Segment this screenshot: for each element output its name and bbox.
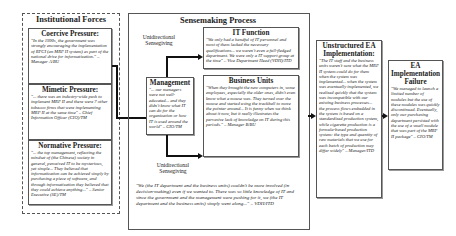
mimetic-pressure-title: Mimetic Pressure:: [31, 86, 109, 94]
unstructured-ea-title: Unstructured EA Implementation:: [319, 42, 379, 58]
business-units-box: Business Units "When they brought the ne…: [203, 75, 299, 157]
management-quote: "... our managers were not well-educated…: [149, 87, 191, 129]
ea-failure-quote: "We managed to launch a limited number o…: [391, 86, 440, 139]
normative-pressure-title: Normative Pressure:: [31, 142, 109, 150]
institutional-to-management-connector-vertical: [116, 65, 118, 119]
it-function-box: IT Function "We only had a handful of IT…: [203, 27, 299, 69]
management-box: Management "... our managers were not we…: [146, 77, 194, 135]
management-to-it-connector-vertical: [166, 56, 168, 77]
unstructured-ea-quote: "The IT staff and the business units wer…: [319, 58, 379, 153]
business-units-title: Business Units: [206, 77, 296, 85]
it-function-quote: "We only had a handful of IT personnel a…: [206, 37, 296, 63]
management-to-it-connector-horizontal: [166, 56, 198, 58]
management-to-bu-connector-vertical: [166, 135, 168, 157]
arrow-to-business-units-icon: [198, 153, 203, 159]
ea-failure-box: EA Implementation Failure "We managed to…: [388, 60, 443, 170]
it-function-title: IT Function: [206, 29, 296, 37]
mimetic-pressure-quote: "... there was an industry-wide push to …: [31, 94, 109, 120]
business-units-quote: "When they brought the new computers in,…: [206, 85, 296, 127]
mimetic-pressure-box: Mimetic Pressure: "... there was an indu…: [28, 84, 112, 140]
coercive-pressure-box: Coercive Pressure: "In the 1990s, the go…: [28, 28, 112, 84]
normative-pressure-box: Normative Pressure: "... the top managem…: [28, 140, 112, 205]
management-title: Management: [149, 79, 191, 87]
coercive-pressure-quote: "In the 1990s, the government was strong…: [31, 38, 109, 64]
sensemaking-title: Sensemaking Process: [128, 16, 308, 26]
sensegiving-label-top: Unidirectional Sensegiving: [138, 34, 180, 46]
sensegiving-label-bottom: Unidirectional Sensegiving: [152, 162, 194, 174]
unstructured-ea-box: Unstructured EA Implementation: "The IT …: [316, 40, 382, 198]
ea-failure-title: EA Implementation Failure: [391, 62, 440, 86]
coercive-pressure-title: Coercive Pressure:: [31, 30, 109, 38]
management-to-bu-connector-horizontal: [166, 155, 198, 157]
arrow-to-it-function-icon: [198, 54, 203, 60]
institutional-forces-title: Institutional Forces: [22, 15, 120, 25]
normative-pressure-quote: "... the top management, reflecting the …: [31, 150, 109, 198]
sensemaking-bottom-quote: "We (the IT department and the business …: [136, 183, 304, 207]
